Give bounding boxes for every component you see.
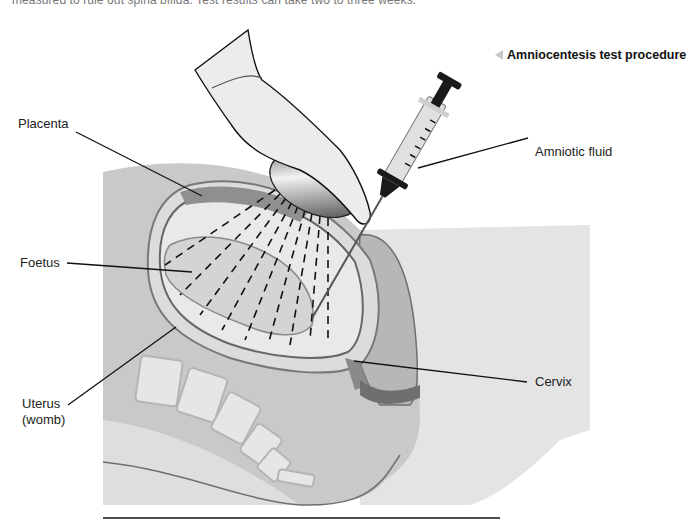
label-uterus-line2: (womb) bbox=[22, 412, 65, 428]
label-uterus: Uterus (womb) bbox=[22, 396, 65, 428]
label-foetus: Foetus bbox=[20, 255, 60, 271]
label-placenta: Placenta bbox=[18, 116, 69, 132]
label-amniotic-fluid: Amniotic fluid bbox=[535, 144, 612, 160]
label-uterus-line1: Uterus bbox=[22, 396, 65, 412]
amniocentesis-illustration bbox=[0, 0, 693, 531]
label-cervix: Cervix bbox=[535, 374, 572, 390]
